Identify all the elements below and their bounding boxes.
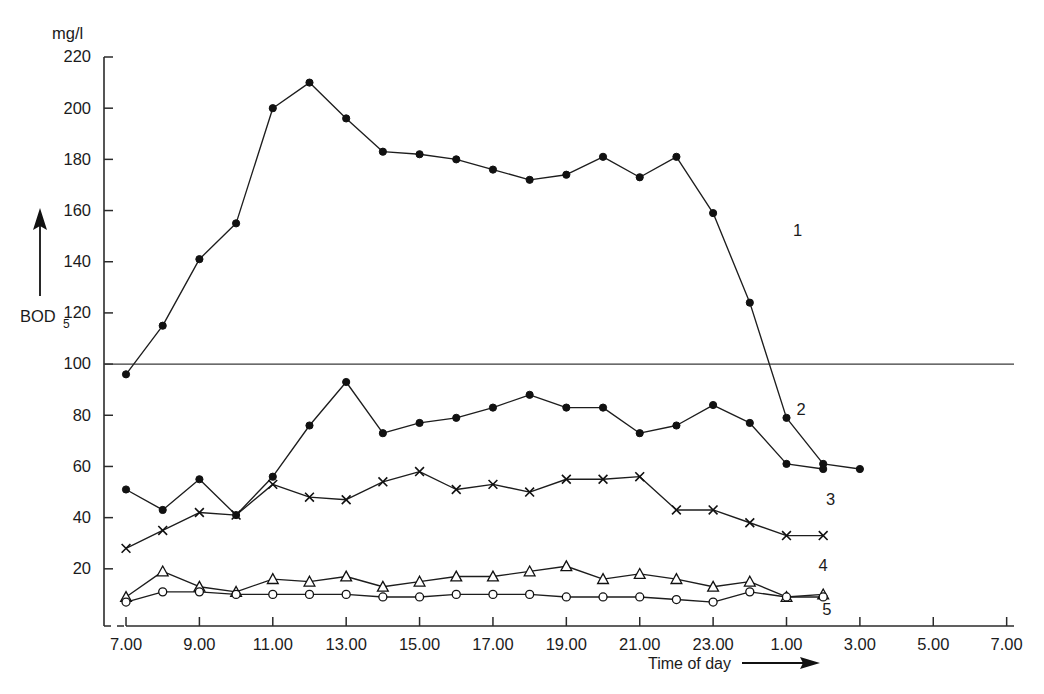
- data-point: [195, 588, 203, 596]
- data-point: [453, 414, 460, 421]
- data-point: [599, 593, 607, 601]
- x-tick-label: 5.00: [917, 635, 949, 653]
- data-point: [453, 156, 460, 163]
- series-line-4: [126, 566, 823, 597]
- series-line-2: [126, 382, 823, 515]
- data-point: [269, 473, 276, 480]
- x-tick-label: 23.00: [692, 635, 733, 653]
- data-point: [489, 590, 497, 598]
- y-axis-title-text: BOD: [20, 307, 56, 325]
- series-label-3: 3: [826, 490, 835, 508]
- data-point: [526, 590, 534, 598]
- data-point: [159, 322, 166, 329]
- bod5-time-of-day-chart: 204060801001201401601802002207.009.0011.…: [0, 0, 1044, 694]
- data-point: [306, 422, 313, 429]
- data-point: [416, 151, 423, 158]
- data-point: [416, 593, 424, 601]
- data-point: [342, 590, 350, 598]
- data-point: [710, 401, 717, 408]
- data-point: [343, 378, 350, 385]
- data-point: [636, 174, 643, 181]
- y-tick-label: 80: [73, 406, 91, 424]
- x-tick-label: 15.00: [399, 635, 440, 653]
- unit-label: mg/l: [52, 24, 83, 42]
- data-point: [820, 465, 827, 472]
- y-tick-label: 160: [63, 201, 91, 219]
- data-point: [379, 593, 387, 601]
- series-label-2: 2: [797, 400, 806, 418]
- data-point: [744, 576, 755, 586]
- data-point: [563, 404, 570, 411]
- data-point: [269, 105, 276, 112]
- x-tick-label: 1.00: [770, 635, 802, 653]
- data-point: [746, 299, 753, 306]
- x-tick-label: 3.00: [844, 635, 876, 653]
- data-point: [122, 598, 130, 606]
- x-tick-label: 13.00: [326, 635, 367, 653]
- data-point: [489, 166, 496, 173]
- series-label-1: 1: [793, 221, 802, 239]
- data-point: [599, 404, 606, 411]
- x-tick-label: 11.00: [253, 635, 293, 653]
- series-2: [122, 378, 826, 518]
- data-point: [562, 593, 570, 601]
- data-point: [634, 569, 645, 579]
- data-point: [783, 593, 791, 601]
- data-point: [856, 465, 863, 472]
- data-point: [157, 566, 168, 576]
- data-point: [378, 477, 387, 486]
- x-tick-label: 9.00: [183, 635, 215, 653]
- data-point: [122, 371, 129, 378]
- data-point: [341, 571, 352, 581]
- y-axis-title-subscript: 5: [63, 317, 70, 331]
- data-point: [159, 588, 167, 596]
- data-point: [746, 588, 754, 596]
- x-tick-label: 7.00: [110, 635, 142, 653]
- data-point: [452, 590, 460, 598]
- data-point: [673, 153, 680, 160]
- data-point: [268, 480, 277, 489]
- data-point: [196, 476, 203, 483]
- series-1: [122, 79, 863, 473]
- y-tick-label: 20: [73, 559, 91, 577]
- data-point: [232, 590, 240, 598]
- x-axis-caption: Time of day: [648, 655, 731, 672]
- x-axis-ticks: 7.009.0011.0013.0015.0017.0019.0021.0023…: [110, 617, 1023, 653]
- data-point: [415, 467, 424, 476]
- data-point: [783, 460, 790, 467]
- chart-canvas: 204060801001201401601802002207.009.0011.…: [0, 0, 1044, 694]
- series-line-5: [126, 592, 823, 602]
- data-point: [379, 148, 386, 155]
- y-tick-label: 40: [73, 508, 91, 526]
- data-point: [232, 220, 239, 227]
- series-4: [121, 561, 829, 602]
- series-label-4: 4: [819, 556, 828, 574]
- data-point: [672, 596, 680, 604]
- data-point: [305, 590, 313, 598]
- series-label-5: 5: [822, 600, 831, 618]
- axis-group: [104, 57, 1014, 626]
- data-point: [526, 176, 533, 183]
- data-point: [563, 171, 570, 178]
- data-point: [489, 404, 496, 411]
- data-point: [158, 526, 167, 535]
- y-tick-label: 140: [63, 252, 91, 270]
- data-point: [306, 79, 313, 86]
- data-point: [122, 486, 129, 493]
- data-point: [710, 210, 717, 217]
- y-tick-label: 60: [73, 457, 91, 475]
- series-3: [122, 467, 828, 553]
- y-tick-label: 100: [63, 354, 91, 372]
- data-point: [267, 574, 278, 584]
- data-point: [636, 593, 644, 601]
- data-point: [599, 153, 606, 160]
- data-point: [673, 422, 680, 429]
- x-axis-arrow-head: [800, 657, 820, 669]
- data-point: [196, 256, 203, 263]
- x-tick-label: 21.00: [619, 635, 660, 653]
- data-point: [745, 518, 754, 527]
- x-axis-caption-group: Time of day: [648, 655, 820, 672]
- y-tick-label: 200: [63, 99, 91, 117]
- data-point: [783, 414, 790, 421]
- data-point: [343, 115, 350, 122]
